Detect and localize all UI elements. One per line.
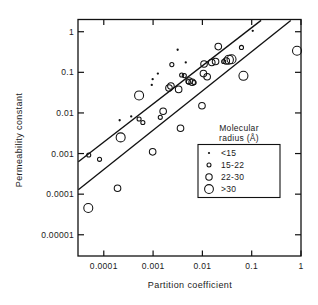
figure-container: 0.00010.0010.010.11 10.10.010.0010.00010… [0, 0, 318, 305]
x-axis-ticks [104, 20, 301, 257]
data-point-circle [135, 91, 144, 100]
data-point-circle [215, 43, 222, 50]
legend-box [198, 145, 280, 198]
data-point-circle [208, 59, 215, 66]
data-point-circle [182, 74, 186, 78]
x-axis-tick-labels: 0.00010.0010.010.11 [90, 261, 304, 271]
x-tick-label: 1 [298, 261, 303, 271]
x-tick-label: 0.01 [194, 261, 212, 271]
data-point-circle [293, 46, 302, 55]
data-point-circle [97, 157, 101, 161]
legend-marker-0 [208, 152, 210, 154]
data-point-circle [239, 71, 248, 80]
data-point-dot [152, 78, 154, 80]
y-tick-label: 0.01 [56, 108, 74, 118]
data-point-dot [157, 72, 159, 74]
data-point-circle [114, 185, 121, 192]
data-point-circle [149, 149, 156, 156]
data-point-circle [175, 86, 182, 93]
data-point-circle [199, 102, 206, 109]
legend: Molecularradius (Å)<1515-2222-30>30 [198, 123, 280, 198]
y-tick-label: 0.001 [51, 149, 74, 159]
data-point-circle [141, 120, 145, 124]
data-point-circle [137, 117, 141, 121]
data-point-circle [116, 133, 125, 142]
y-axis-ticks [78, 32, 301, 235]
data-point-circle [177, 125, 184, 132]
legend-label-2: 22-30 [221, 172, 244, 182]
x-tick-label: 0.001 [142, 261, 165, 271]
data-point-dot [177, 49, 179, 51]
data-point-dot [119, 119, 121, 121]
legend-label-0: <15 [221, 148, 236, 158]
x-tick-label: 0.1 [245, 261, 258, 271]
y-tick-label: 0.0001 [46, 189, 74, 199]
data-point-dot [151, 84, 153, 86]
y-tick-label: 0.1 [61, 67, 74, 77]
data-point-dot [185, 61, 187, 63]
y-tick-label: 1 [69, 27, 74, 37]
y-axis-tick-labels: 10.10.010.0010.00010.00001 [41, 27, 74, 240]
data-point-circle [158, 115, 162, 119]
data-point-dot [252, 30, 254, 32]
x-axis-title: Partition coefficient [148, 280, 232, 290]
y-tick-label: 0.00001 [41, 230, 74, 240]
legend-label-3: >30 [221, 184, 236, 194]
data-point-circle [170, 63, 174, 67]
scatter-plot: 0.00010.0010.010.11 10.10.010.0010.00010… [0, 0, 318, 305]
data-point-circle [84, 204, 93, 213]
data-point-circle [160, 108, 167, 115]
y-axis-title: Permeability constant [14, 93, 24, 188]
plot-frame [78, 20, 301, 257]
legend-title-line1: Molecular [219, 123, 259, 133]
legend-label-1: 15-22 [221, 160, 244, 170]
x-tick-label: 0.0001 [90, 261, 118, 271]
data-point-dot [130, 115, 132, 117]
data-point-circle [239, 45, 243, 49]
legend-title-line2: radius (Å) [219, 133, 259, 143]
